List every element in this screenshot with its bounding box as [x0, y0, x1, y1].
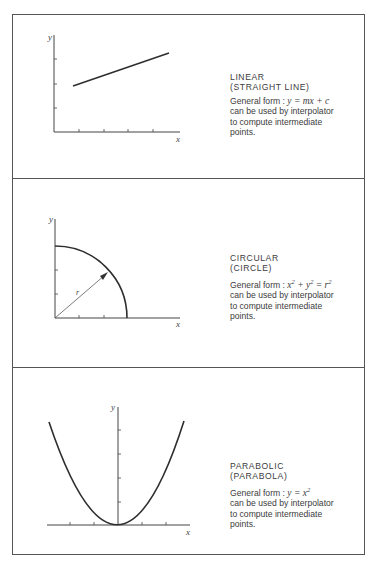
desc-line: points. — [230, 311, 334, 321]
y-axis-label: y — [110, 402, 115, 412]
formula: y = mx + c — [287, 96, 329, 106]
curve-title: LINEAR — [230, 72, 334, 82]
curve-title: PARABOLIC — [230, 461, 334, 471]
radius-label: r — [76, 288, 80, 297]
desc-line: to compute intermediate — [230, 117, 334, 127]
y-axis-label: y — [48, 214, 53, 224]
curve-subtitle: (STRAIGHT LINE) — [230, 82, 334, 92]
circular-description: CIRCULAR (CIRCLE) General form : x2 + y2… — [230, 253, 334, 322]
desc-line: can be used by interpolator — [230, 498, 334, 508]
x-axis-label: x — [185, 527, 190, 537]
desc-line: points. — [230, 127, 334, 137]
linear-description: LINEAR (STRAIGHT LINE) General form : y … — [230, 72, 334, 137]
x-axis-label: x — [175, 134, 180, 144]
desc-line: points. — [230, 519, 334, 529]
axis-ticks — [54, 59, 153, 132]
radius-arrowhead-icon — [100, 272, 108, 280]
quarter-circle-curve — [55, 246, 127, 318]
formula-prefix: General form : — [230, 280, 287, 290]
curve-subtitle: (CIRCLE) — [230, 263, 334, 273]
parabola-curve — [49, 421, 184, 525]
curve-title: CIRCULAR — [230, 253, 334, 263]
formula: y = x2 — [287, 488, 310, 498]
formula-prefix: General form : — [230, 96, 287, 106]
curve-subtitle: (PARABOLA) — [230, 471, 334, 481]
desc-line: can be used by interpolator — [230, 106, 334, 116]
desc-line: to compute intermediate — [230, 509, 334, 519]
y-axis-label: y — [47, 32, 52, 42]
desc-line: to compute intermediate — [230, 301, 334, 311]
linear-graph — [54, 35, 180, 132]
radius-line — [55, 275, 105, 318]
axis-ticks — [55, 270, 104, 318]
formula: x2 + y2 = r2 — [287, 280, 331, 290]
desc-line: can be used by interpolator — [230, 290, 334, 300]
general-form: General form : y = x2 — [230, 485, 334, 499]
parabolic-description: PARABOLIC (PARABOLA) General form : y = … — [230, 461, 334, 530]
general-form: General form : x2 + y2 = r2 — [230, 277, 334, 291]
parabolic-graph — [47, 407, 190, 525]
straight-line-curve — [73, 53, 169, 86]
circular-graph — [55, 219, 180, 318]
formula-prefix: General form : — [230, 488, 287, 498]
general-form: General form : y = mx + c — [230, 96, 334, 106]
x-axis-label: x — [175, 319, 180, 329]
